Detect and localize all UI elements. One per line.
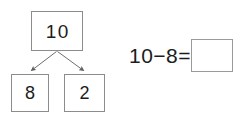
number-bond-whole-box: 10 [31, 11, 83, 51]
arrow-whole-to-part-left [32, 52, 57, 71]
number-bond-whole-value: 10 [44, 22, 70, 41]
equation-answer-box[interactable] [191, 39, 233, 72]
number-bond-part-left-box: 8 [11, 74, 49, 112]
equation-expression: 10−8= [129, 45, 191, 66]
equation-row: 10−8= [129, 39, 233, 72]
number-bond-part-right-value: 2 [79, 84, 89, 102]
number-bond-part-left-value: 8 [25, 84, 35, 102]
arrow-whole-to-part-right [58, 52, 84, 71]
worksheet-canvas: 10 8 2 10−8= [0, 0, 233, 116]
number-bond-part-right-box: 2 [64, 74, 105, 112]
